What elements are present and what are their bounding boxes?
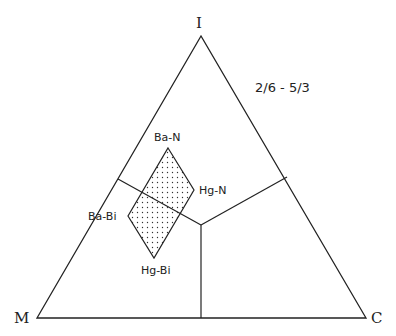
field-label-hg-n: Hg-N	[199, 184, 226, 197]
field-label-ba-bi: Ba-Bi	[88, 210, 116, 223]
vertex-label-bottom-left: M	[14, 309, 29, 327]
ratio-label: 2/6 - 5/3	[255, 80, 310, 95]
ternary-diagram	[0, 0, 396, 336]
field-label-ba-n: Ba-N	[154, 131, 181, 144]
field-label-hg-bi: Hg-Bi	[141, 264, 170, 277]
stippled-field-diamond	[128, 148, 194, 258]
vertex-label-top: I	[196, 14, 202, 32]
vertex-label-bottom-right: C	[371, 309, 382, 327]
